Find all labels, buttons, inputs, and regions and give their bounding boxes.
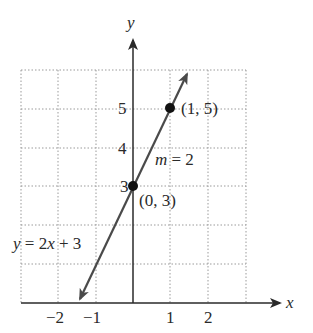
- tick-x-1: 1: [166, 308, 175, 327]
- tick-y-4: 4: [118, 139, 127, 158]
- y-axis-label: y: [125, 13, 135, 32]
- tick-y-3: 3: [120, 177, 129, 196]
- chart-canvas: y x −2 −1 1 2 5 4 3 (1, 5) (0, 3) m = 2 …: [0, 0, 313, 333]
- tick-y-5: 5: [118, 99, 127, 118]
- point-label-1-5: (1, 5): [181, 99, 218, 118]
- equation-label: y = 2x + 3: [11, 234, 81, 253]
- point-1-5: [165, 103, 175, 113]
- tick-x-neg1: −1: [83, 308, 101, 327]
- tick-x-neg2: −2: [46, 308, 64, 327]
- tick-x-2: 2: [204, 308, 213, 327]
- x-axis-label: x: [285, 293, 294, 312]
- point-0-3: [128, 181, 138, 191]
- chart-figure: y x −2 −1 1 2 5 4 3 (1, 5) (0, 3) m = 2 …: [0, 0, 313, 333]
- point-label-0-3: (0, 3): [139, 191, 176, 210]
- slope-label: m = 2: [155, 150, 194, 169]
